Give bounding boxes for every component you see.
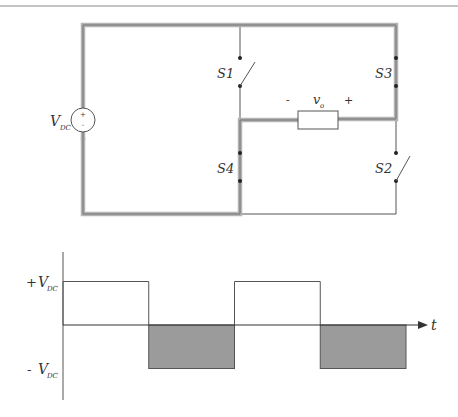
svg-text:DC: DC <box>46 285 59 293</box>
waveform-chart: t + V DC - V DC <box>26 252 437 400</box>
source-plus: + <box>80 111 86 119</box>
switch-s4-label: S4 <box>217 161 234 176</box>
switch-s1-label: S1 <box>217 66 234 81</box>
current-path-bottom <box>83 120 298 214</box>
load-plus: + <box>344 94 353 107</box>
load-label-subscript: o <box>320 102 324 110</box>
waveform-negative-half-1 <box>149 325 235 369</box>
load-minus: - <box>286 94 290 107</box>
load: - + v o <box>286 92 353 129</box>
switch-s1-blade <box>240 62 255 86</box>
waveform-negative-half-3 <box>320 325 406 369</box>
x-axis-arrow-icon <box>418 321 428 329</box>
svg-text:+: + <box>26 275 37 290</box>
waveform-positive-half-0 <box>63 282 149 326</box>
source-label-subscript: DC <box>59 124 72 132</box>
load-resistor <box>298 111 338 129</box>
switch-s2-blade <box>396 156 410 181</box>
y-tick-label-negative: - V DC <box>27 361 59 380</box>
switch-s2: S2 <box>375 151 410 183</box>
svg-text:-: - <box>27 362 31 377</box>
diagram-canvas: + - V DC S1 S3 S4 S2 <box>0 0 458 417</box>
switch-s1: S1 <box>217 56 255 88</box>
x-axis-label: t <box>431 317 437 333</box>
switch-s3-label: S3 <box>375 66 392 81</box>
dc-source: + - V DC <box>50 108 95 132</box>
y-tick-label-positive: + V DC <box>26 274 59 293</box>
svg-text:DC: DC <box>46 372 59 380</box>
waveform-positive-half-2 <box>235 282 321 326</box>
circuit: + - V DC S1 S3 S4 S2 <box>50 25 410 214</box>
switch-s2-label: S2 <box>375 161 392 176</box>
